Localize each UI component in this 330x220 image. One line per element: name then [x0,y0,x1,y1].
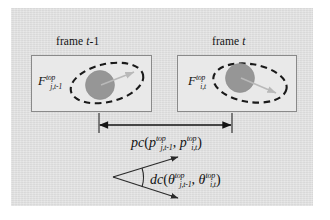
feature-group-current [210,58,289,107]
direction-cost-wedge [113,157,178,198]
figure-canvas: frame t-1 frame t Ftopj,t-1 Ftopi,t pc(p… [0,0,330,220]
feature-group-previous [67,56,148,110]
feature-blob-previous [86,71,115,100]
wedge-angle-arc [142,168,143,187]
wedge-ray-upper [113,157,178,177]
position-cost-measure [99,113,232,133]
feature-blob-current [226,64,255,93]
wedge-ray-lower [113,177,178,198]
diagram-vectors [0,0,330,220]
